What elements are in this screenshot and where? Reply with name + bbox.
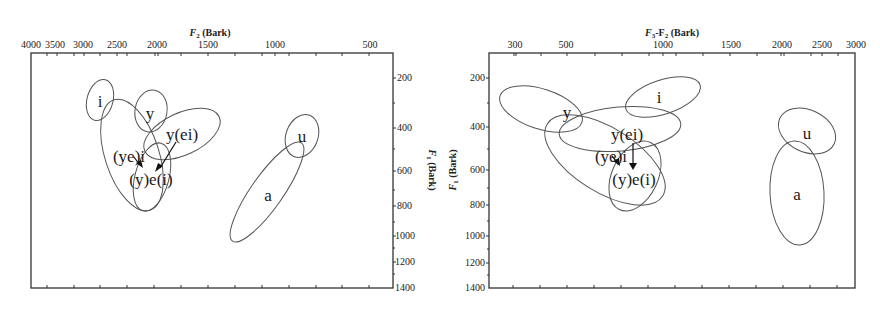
right-ellipses: [494, 69, 843, 247]
label-y-e-i: (y)e(i): [612, 170, 655, 189]
figure: F2 (Bark) 4000 3500 3000 2500 2000 1500 …: [0, 0, 880, 311]
label-ye-i: (ye)i: [113, 147, 145, 166]
svg-text:1000: 1000: [653, 39, 673, 50]
label-i: i: [98, 92, 103, 111]
svg-text:1500: 1500: [721, 39, 741, 50]
label-y-ei: y(ei): [166, 125, 198, 144]
svg-text:1000: 1000: [465, 230, 485, 241]
right-x-tick-labels: 300 500 1000 1500 2000 2500 3000: [508, 39, 867, 50]
label-i: i: [657, 88, 662, 107]
svg-text:2000: 2000: [772, 39, 792, 50]
left-chart: F2 (Bark) 4000 3500 3000 2500 2000 1500 …: [21, 27, 438, 293]
svg-text:500: 500: [363, 39, 378, 50]
svg-text:1000: 1000: [395, 230, 415, 241]
svg-text:2500: 2500: [812, 39, 832, 50]
svg-text:1400: 1400: [395, 282, 415, 293]
left-y-axis-title: F1 (Bark): [425, 148, 438, 190]
label-y: y: [146, 104, 155, 123]
label-a: a: [264, 186, 272, 205]
label-u: u: [298, 127, 307, 146]
label-y-e-i: (y)e(i): [129, 170, 172, 189]
svg-text:600: 600: [470, 164, 485, 175]
svg-text:200: 200: [397, 72, 412, 83]
svg-text:1200: 1200: [395, 256, 415, 267]
right-y-axis-title: F1 (Bark): [447, 149, 460, 191]
svg-text:300: 300: [508, 39, 523, 50]
svg-text:600: 600: [397, 165, 412, 176]
label-y-ei: y(ei): [611, 125, 643, 144]
svg-text:400: 400: [470, 121, 485, 132]
svg-text:4000: 4000: [21, 39, 41, 50]
label-u: u: [803, 124, 812, 143]
right-vowel-labels: y i y(ei) (ye)i (y)e(i) u a: [563, 88, 812, 204]
svg-text:800: 800: [397, 200, 412, 211]
right-chart: F3-F2 (Bark) 300 500 1000 1500 2000 2500…: [447, 27, 866, 293]
svg-text:500: 500: [559, 39, 574, 50]
svg-text:3500: 3500: [45, 39, 65, 50]
svg-text:1400: 1400: [465, 282, 485, 293]
label-y: y: [563, 103, 572, 122]
svg-text:2000: 2000: [147, 39, 167, 50]
left-y-tick-labels: 200 400 600 800 1000 1200 1400: [395, 72, 415, 293]
svg-text:1000: 1000: [265, 39, 285, 50]
svg-text:1200: 1200: [465, 257, 485, 268]
svg-text:400: 400: [397, 122, 412, 133]
left-x-tick-labels: 4000 3500 3000 2500 2000 1500 1000 500: [21, 39, 378, 50]
svg-text:3000: 3000: [846, 39, 866, 50]
label-a: a: [793, 185, 801, 204]
left-vowel-labels: i y y(ei) (ye)i (y)e(i) u a: [98, 92, 307, 205]
right-y-tick-labels: 200 400 600 800 1000 1200 1400: [465, 72, 485, 293]
ellipse-i: [621, 69, 706, 125]
svg-text:1500: 1500: [198, 39, 218, 50]
svg-text:200: 200: [470, 72, 485, 83]
svg-text:800: 800: [470, 199, 485, 210]
label-ye-i: (ye)i: [595, 147, 627, 166]
right-plot-frame: [489, 53, 855, 288]
svg-text:2500: 2500: [107, 39, 127, 50]
ellipse-y: [494, 77, 588, 142]
left-plot-frame: [31, 53, 393, 288]
svg-text:3000: 3000: [73, 39, 93, 50]
